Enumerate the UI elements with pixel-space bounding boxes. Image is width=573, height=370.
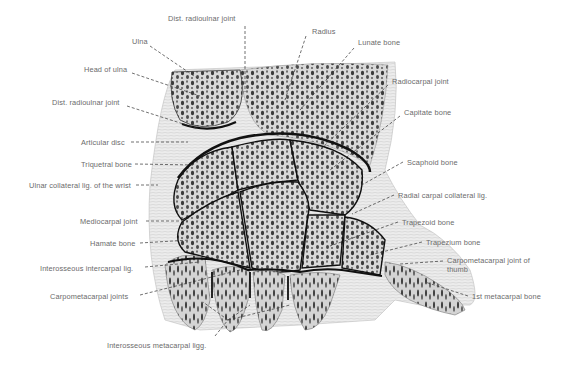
- label-first-metacarpal-bone: 1st metacarpal bone: [472, 292, 541, 301]
- label-articular-disc: Articular disc: [81, 138, 125, 147]
- label-cmc-joint-of-thumb: Carpometacarpal joint of thumb: [447, 256, 547, 274]
- label-triquetral-bone: Triquetral bone: [81, 160, 132, 169]
- label-trapezoid-bone: Trapezoid bone: [402, 218, 455, 227]
- label-head-of-ulna: Head of ulna: [84, 65, 127, 74]
- label-ulnar-collateral-lig: Ulnar collateral lig. of the wrist: [29, 181, 131, 190]
- label-dist-radioulnar-joint-left: Dist. radioulnar joint: [52, 98, 120, 107]
- label-lunate-bone: Lunate bone: [358, 38, 400, 47]
- label-scaphoid-bone: Scaphoid bone: [407, 158, 458, 167]
- label-dist-radioulnar-joint-top: Dist. radioulnar joint: [168, 14, 236, 23]
- label-hamate-bone: Hamate bone: [90, 239, 135, 248]
- label-radial-carpal-collateral-lig: Radial carpal collateral lig.: [398, 191, 487, 200]
- label-ulna: Ulna: [132, 37, 148, 46]
- label-radiocarpal-joint: Radiocarpal joint: [392, 77, 449, 86]
- label-carpometacarpal-joints: Carpometacarpal joints: [50, 292, 128, 301]
- label-trapezium-bone: Trapezium bone: [426, 238, 481, 247]
- label-interosseous-intercarpal-lig: Interosseous intercarpal lig.: [40, 264, 133, 273]
- label-mediocarpal-joint: Mediocarpal joint: [80, 217, 138, 226]
- label-capitate-bone: Capitate bone: [404, 108, 451, 117]
- label-radius: Radius: [312, 27, 336, 36]
- label-interosseous-metacarpal-ligg: Interosseous metacarpal ligg.: [107, 341, 206, 350]
